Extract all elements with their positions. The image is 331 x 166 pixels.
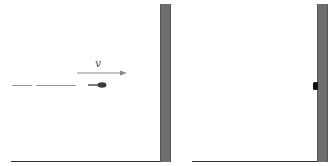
embedded-bullet-icon <box>313 82 318 90</box>
velocity-arrow-icon <box>77 71 127 76</box>
right-panel <box>175 0 331 166</box>
right-panel-graphics <box>175 0 331 166</box>
left-panel: v <box>0 0 175 166</box>
bullet-icon <box>88 82 107 88</box>
left-panel-graphics <box>0 0 175 166</box>
